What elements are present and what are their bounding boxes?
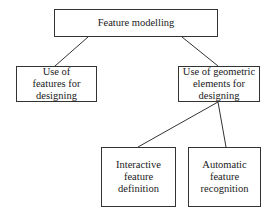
edge-right-interactive — [138, 102, 218, 147]
node-use-of-geometric-elements: Use of geometric elements for designing — [178, 66, 260, 102]
node-feature-modelling: Feature modelling — [54, 9, 218, 37]
edge-root-right — [182, 37, 218, 66]
node-label: Automatic feature recognition — [201, 159, 249, 195]
node-automatic-feature-recognition: Automatic feature recognition — [188, 147, 261, 207]
edge-root-left — [55, 37, 88, 66]
node-label: Feature modelling — [98, 17, 175, 29]
node-label: Use of geometric elements for designing — [183, 66, 255, 102]
edge-right-automatic — [218, 102, 226, 147]
node-label: Interactive feature definition — [116, 159, 161, 195]
node-label: Use of features for designing — [32, 66, 80, 102]
node-interactive-feature-definition: Interactive feature definition — [101, 147, 176, 207]
node-use-of-features: Use of features for designing — [16, 66, 97, 102]
